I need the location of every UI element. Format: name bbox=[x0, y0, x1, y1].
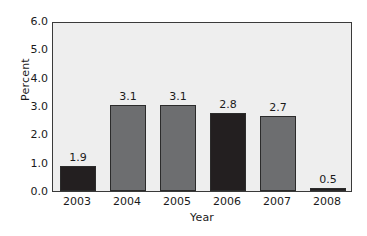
y-axis-tick-label: 1.0 bbox=[12, 158, 48, 169]
y-axis-tick-label: 2.0 bbox=[12, 129, 48, 140]
y-axis-tick-label: 5.0 bbox=[12, 44, 48, 55]
x-axis-tick-label-2005: 2005 bbox=[152, 195, 202, 208]
bar-2003[interactable] bbox=[60, 166, 96, 192]
bar-slot: 1.9 bbox=[53, 23, 103, 191]
y-axis-tick-label: 4.0 bbox=[12, 73, 48, 84]
bar-slot: 2.7 bbox=[253, 23, 303, 191]
bar-2006[interactable] bbox=[210, 113, 246, 191]
plot-area: 1.93.13.12.82.70.5 bbox=[52, 22, 352, 192]
x-axis-tick-label-2004: 2004 bbox=[102, 195, 152, 208]
bar-slot: 3.1 bbox=[153, 23, 203, 191]
x-axis-title: Year bbox=[52, 211, 352, 224]
bar-value-label: 3.1 bbox=[153, 91, 203, 103]
bar-value-label: 2.7 bbox=[253, 102, 303, 114]
y-axis-tick-label: 0.0 bbox=[12, 186, 48, 197]
bar-value-label: 2.8 bbox=[203, 99, 253, 111]
bar-value-label: 1.9 bbox=[53, 152, 103, 164]
y-axis-tick-labels: 6.05.04.03.02.01.00.0 bbox=[12, 22, 48, 192]
bar-slot: 2.8 bbox=[203, 23, 253, 191]
bar-2005[interactable] bbox=[160, 105, 196, 191]
bar-slot: 0.5 bbox=[303, 23, 353, 191]
bar-value-label: 0.5 bbox=[303, 174, 353, 186]
x-axis-tick-label-2006: 2006 bbox=[202, 195, 252, 208]
x-axis-tick-label-2003: 2003 bbox=[52, 195, 102, 208]
y-axis-tick-label: 6.0 bbox=[12, 16, 48, 27]
bar-chart-figure: Percent 6.05.04.03.02.01.00.0 1.93.13.12… bbox=[0, 0, 367, 236]
bar-2008[interactable] bbox=[310, 188, 346, 191]
bars-layer: 1.93.13.12.82.70.5 bbox=[53, 23, 351, 191]
y-axis-tick-label: 3.0 bbox=[12, 101, 48, 112]
x-axis-tick-labels: 200320042005200620072008 bbox=[52, 195, 352, 211]
bar-2007[interactable] bbox=[260, 116, 296, 191]
bar-2004[interactable] bbox=[110, 105, 146, 191]
bar-value-label: 3.1 bbox=[103, 91, 153, 103]
x-axis-tick-label-2007: 2007 bbox=[252, 195, 302, 208]
x-axis-tick-label-2008: 2008 bbox=[302, 195, 352, 208]
bar-slot: 3.1 bbox=[103, 23, 153, 191]
